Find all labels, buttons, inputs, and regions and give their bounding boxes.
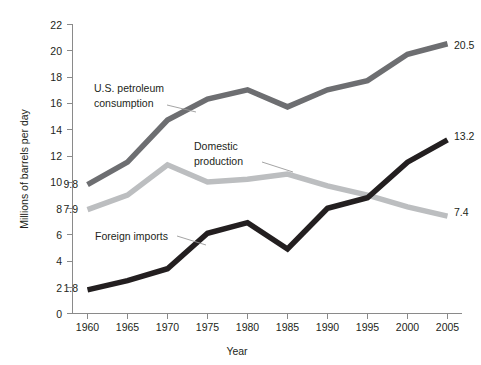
start-label-consumption: 9.8 (63, 178, 78, 190)
y-tick-label-20: 20 (50, 45, 62, 57)
y-tick-label-18: 18 (50, 71, 62, 83)
annotation-consumption-line1: U.S. petroleum (94, 82, 164, 94)
x-tick-label-2005: 2005 (436, 321, 460, 333)
y-tick-label-8: 8 (56, 203, 62, 215)
annotation-imports-line1: Foreign imports (95, 230, 168, 242)
y-tick-label-4: 4 (56, 255, 62, 267)
x-tick-label-1980: 1980 (236, 321, 260, 333)
y-tick-label-12: 12 (50, 150, 62, 162)
start-label-production: 7.9 (63, 203, 78, 215)
end-label-imports: 13.2 (454, 130, 475, 142)
x-axis-title: Year (226, 345, 248, 357)
end-label-consumption: 20.5 (454, 39, 475, 51)
x-tick-label-1995: 1995 (356, 321, 380, 333)
x-tick-label-1990: 1990 (316, 321, 340, 333)
x-tick-label-1960: 1960 (76, 321, 100, 333)
y-tick-label-10: 10 (50, 176, 62, 188)
annotation-production-line1: Domestic (194, 140, 238, 152)
chart-canvas: 22 20 18 16 14 12 10 8 6 4 2 0 1960 1965… (0, 0, 481, 365)
y-tick-label-0: 0 (56, 308, 62, 320)
annotation-consumption-line2: consumption (94, 97, 154, 109)
y-tick-label-14: 14 (50, 124, 62, 136)
start-label-imports: 1.8 (63, 282, 78, 294)
y-tick-label-6: 6 (56, 229, 62, 241)
x-tick-label-1985: 1985 (276, 321, 300, 333)
y-tick-label-16: 16 (50, 97, 62, 109)
x-tick-label-2000: 2000 (396, 321, 420, 333)
y-tick-label-2: 2 (56, 282, 62, 294)
annotation-production-line2: production (194, 155, 243, 167)
end-label-production: 7.4 (454, 206, 469, 218)
x-tick-label-1970: 1970 (156, 321, 180, 333)
x-tick-label-1965: 1965 (116, 321, 140, 333)
y-axis-title: Millions of barrels per day (18, 108, 30, 228)
line-chart: 22 20 18 16 14 12 10 8 6 4 2 0 1960 1965… (0, 0, 481, 365)
y-tick-label-22: 22 (50, 19, 62, 31)
x-tick-label-1975: 1975 (196, 321, 220, 333)
